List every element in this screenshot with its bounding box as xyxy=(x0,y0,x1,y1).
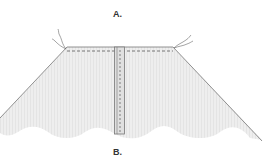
thread-left xyxy=(58,29,66,49)
thread-right-2 xyxy=(174,41,193,48)
center-seam xyxy=(115,47,125,134)
thread-left-2 xyxy=(52,39,66,49)
label-b: B. xyxy=(113,147,122,157)
thread-right xyxy=(174,35,191,48)
skirt-panel-diagram xyxy=(0,0,265,162)
fabric-panel xyxy=(0,47,262,140)
